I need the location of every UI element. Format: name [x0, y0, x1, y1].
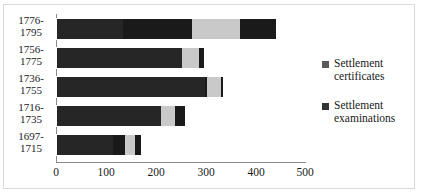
- legend-label-line1: Settlement: [334, 99, 418, 112]
- bar-row-1756-1775[interactable]: [56, 47, 205, 69]
- plot-area: 1776- 1795 1756- 1775 1736- 1755 1716- 1…: [0, 0, 422, 195]
- y-tick-label-1776-1795: 1776- 1795: [8, 15, 54, 38]
- y-tick-line1: 1736-: [8, 73, 54, 85]
- stacked-bar[interactable]: [56, 105, 186, 127]
- legend-label-line1: Settlement: [334, 57, 418, 70]
- bar-segment-settlement-certificates[interactable]: [182, 48, 199, 68]
- legend-item-settlement-examinations[interactable]: Settlement examinations: [322, 99, 418, 125]
- chart-screenshot: 1776- 1795 1756- 1775 1736- 1755 1716- 1…: [0, 0, 422, 195]
- x-tick-label-100: 100: [86, 166, 126, 178]
- bar-segment-settlement-examinations[interactable]: [57, 106, 162, 126]
- bars-container: [56, 14, 305, 162]
- bar-row-1716-1735[interactable]: [56, 105, 186, 127]
- y-tick-label-1716-1735: 1716- 1735: [8, 102, 54, 125]
- x-tick-label-400: 400: [236, 166, 276, 178]
- bar-row-1736-1755[interactable]: [56, 76, 224, 98]
- x-axis-labels: 0 100 200 300 400 500: [0, 166, 422, 184]
- legend-swatch-icon: [322, 61, 329, 68]
- y-tick-label-1697-1715: 1697- 1715: [8, 131, 54, 154]
- bar-segment-settlement-examinations[interactable]: [57, 19, 123, 39]
- stacked-bar[interactable]: [56, 18, 277, 40]
- y-tick-line2: 1795: [8, 27, 54, 39]
- y-tick-line2: 1775: [8, 56, 54, 68]
- x-axis-line: [56, 162, 306, 163]
- x-tick-label-300: 300: [186, 166, 226, 178]
- legend-swatch-icon: [322, 103, 329, 110]
- bar-segment-settlement-examinations[interactable]: [57, 77, 205, 97]
- bar-row-1776-1795[interactable]: [56, 18, 277, 40]
- legend-item-settlement-certificates[interactable]: Settlement certificates: [322, 57, 418, 83]
- y-tick-line2: 1715: [8, 143, 54, 155]
- bar-segment-settlement-certificates[interactable]: [192, 19, 240, 39]
- bar-row-1697-1715[interactable]: [56, 134, 142, 156]
- y-tick-line2: 1755: [8, 85, 54, 97]
- y-tick-line1: 1776-: [8, 15, 54, 27]
- bar-segment-settlement-certificates[interactable]: [161, 106, 175, 126]
- y-tick-label-1736-1755: 1736- 1755: [8, 73, 54, 96]
- stacked-bar[interactable]: [56, 134, 142, 156]
- y-tick-line2: 1735: [8, 114, 54, 126]
- legend-label: Settlement examinations: [334, 99, 418, 125]
- x-tick-label-200: 200: [136, 166, 176, 178]
- chart-legend: Settlement certificates Settlement exami…: [322, 57, 418, 141]
- legend-label-line2: certificates: [334, 70, 418, 83]
- bar-segment-settlement-examinations[interactable]: [57, 48, 190, 68]
- y-tick-line1: 1756-: [8, 44, 54, 56]
- y-tick-line1: 1697-: [8, 131, 54, 143]
- y-tick-line1: 1716-: [8, 102, 54, 114]
- stacked-bar[interactable]: [56, 76, 224, 98]
- bar-segment-settlement-certificates[interactable]: [207, 77, 221, 97]
- x-tick-label-500: 500: [285, 166, 325, 178]
- x-tick-label-0: 0: [36, 166, 76, 178]
- y-axis-labels: 1776- 1795 1756- 1775 1736- 1755 1716- 1…: [8, 14, 54, 162]
- stacked-bar[interactable]: [56, 47, 205, 69]
- legend-label: Settlement certificates: [334, 57, 418, 83]
- bar-segment-settlement-certificates[interactable]: [125, 135, 136, 155]
- legend-label-line2: examinations: [334, 112, 418, 125]
- bar-segment-settlement-examinations[interactable]: [57, 135, 113, 155]
- y-tick-label-1756-1775: 1756- 1775: [8, 44, 54, 67]
